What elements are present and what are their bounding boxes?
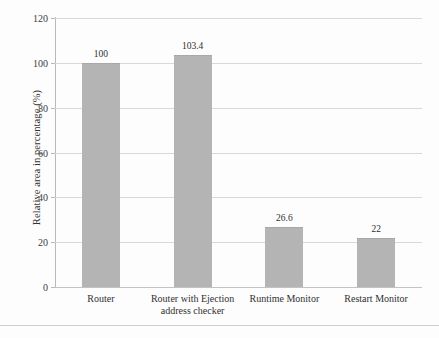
y-tick-label-60: 60 (38, 147, 48, 158)
category-label-1: Router (49, 293, 153, 305)
bar-chart: Relative area in percentage (%) 12010080… (0, 0, 439, 338)
gridline-120 (55, 18, 422, 19)
y-tick-label-120: 120 (33, 13, 48, 24)
category-label-line1: Router (49, 293, 153, 305)
gridline-0 (55, 287, 422, 288)
y-tick-label-40: 40 (38, 192, 48, 203)
bar-4 (357, 238, 395, 287)
bar-3 (265, 227, 303, 287)
y-tick-mark-100 (51, 63, 55, 64)
category-label-2: Router with Ejectionaddress checker (141, 293, 245, 317)
y-tick-label-0: 0 (43, 282, 48, 293)
bar-value-label-1: 100 (66, 49, 136, 59)
y-tick-mark-60 (51, 153, 55, 154)
y-tick-mark-0 (51, 287, 55, 288)
category-label-4: Restart Monitor (324, 293, 428, 305)
y-tick-mark-20 (51, 242, 55, 243)
bar-value-label-4: 22 (341, 224, 411, 234)
y-tick-mark-120 (51, 18, 55, 19)
category-label-3: Runtime Monitor (232, 293, 336, 305)
bar-value-label-3: 26.6 (249, 213, 319, 223)
bar-1 (82, 63, 120, 287)
bar-2 (174, 55, 212, 287)
plot-area: 120100806040200100103.426.622 (55, 18, 422, 287)
y-tick-label-100: 100 (33, 57, 48, 68)
y-tick-label-20: 20 (38, 237, 48, 248)
category-label-line1: Restart Monitor (324, 293, 428, 305)
category-label-line2: address checker (141, 305, 245, 317)
category-label-line1: Runtime Monitor (232, 293, 336, 305)
y-tick-label-80: 80 (38, 102, 48, 113)
bottom-divider (0, 325, 439, 326)
bar-value-label-2: 103.4 (158, 41, 228, 51)
y-tick-mark-40 (51, 197, 55, 198)
category-label-line1: Router with Ejection (141, 293, 245, 305)
y-tick-mark-80 (51, 108, 55, 109)
